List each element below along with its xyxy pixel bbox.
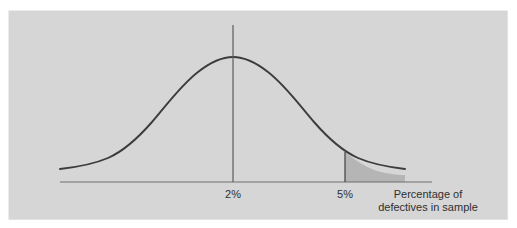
- x-tick-label-upper-limit: 5%: [337, 188, 353, 200]
- figure-root: 2% 5% Percentage of defectives in sample: [0, 0, 517, 228]
- normal-distribution-chart: 2% 5% Percentage of defectives in sample: [8, 10, 508, 220]
- x-axis-caption-line-2: defectives in sample: [378, 201, 478, 213]
- x-tick-label-mean: 2%: [225, 188, 241, 200]
- x-axis-caption-line-1: Percentage of: [394, 188, 463, 200]
- figure-panel-background: 2% 5% Percentage of defectives in sample: [8, 10, 508, 220]
